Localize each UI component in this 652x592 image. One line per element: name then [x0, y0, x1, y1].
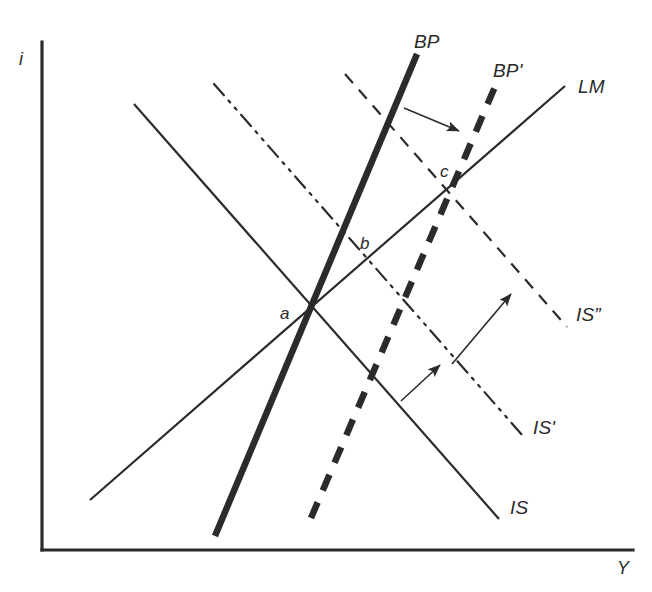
- curve-label-bp: BP: [414, 32, 440, 51]
- curve-bp: [215, 54, 417, 536]
- curve-label-is: IS: [510, 498, 528, 517]
- axes-group: [42, 42, 633, 550]
- curve-label-bp-prime: BP': [493, 61, 523, 80]
- curve-label-is-prime: IS': [533, 418, 555, 437]
- is-to-is-prime-arrow: [401, 365, 440, 401]
- curve-label-lm: LM: [578, 77, 605, 96]
- y-axis-label: i: [19, 50, 23, 68]
- diagram-canvas: [0, 0, 652, 592]
- is-lm-bp-diagram: i Y IS IS' IS” LM BP BP' a b c: [0, 0, 652, 592]
- is-prime-to-is-double-prime-arrow: [452, 294, 511, 364]
- curve-lm: [90, 86, 565, 500]
- point-label-b: b: [360, 235, 369, 252]
- bp-shift-arrow: [404, 108, 459, 131]
- curves-group: [90, 54, 567, 536]
- curve-label-is-double-prime: IS”: [576, 305, 601, 324]
- shift-arrows-group: [401, 108, 511, 401]
- point-label-c: c: [440, 163, 449, 180]
- point-label-a: a: [280, 305, 289, 322]
- x-axis-label: Y: [617, 559, 629, 577]
- curve-is-prime: [214, 84, 523, 436]
